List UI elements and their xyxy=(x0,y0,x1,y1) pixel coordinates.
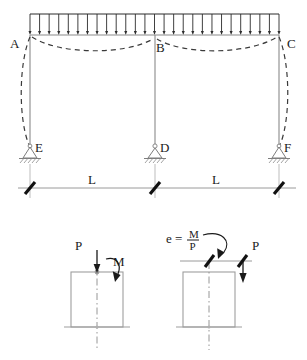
eccentricity-equation-numerator: M xyxy=(189,228,199,240)
udl-arrowhead xyxy=(278,31,281,35)
joint-label-D: D xyxy=(160,140,169,155)
span-label-left: L xyxy=(88,172,96,187)
udl-arrowhead xyxy=(249,31,252,35)
structural-diagram-figure: A B C E D F L L P M e = M P P xyxy=(0,0,307,360)
detail-right-P-arrowhead xyxy=(239,273,246,283)
deflected-beam-right-bay xyxy=(157,37,277,51)
udl-arrowhead xyxy=(191,31,194,35)
detail-left-bottom-node xyxy=(96,326,99,329)
udl-arrowhead xyxy=(38,31,41,35)
udl-arrowhead xyxy=(201,31,204,35)
eccentricity-equation-denominator: P xyxy=(190,240,196,252)
udl-arrowhead xyxy=(48,31,51,35)
eccentricity-equation-lhs: e = xyxy=(166,231,182,246)
udl-arrowhead xyxy=(29,31,32,35)
udl-arrowhead xyxy=(220,31,223,35)
joint-label-E: E xyxy=(35,140,43,155)
udl-arrowhead xyxy=(105,31,108,35)
udl-arrowhead xyxy=(210,31,213,35)
deflected-beam-left-bay xyxy=(32,37,153,51)
udl-arrowhead xyxy=(134,31,137,35)
udl-arrow-group xyxy=(29,14,281,35)
udl-arrowhead xyxy=(258,31,261,35)
joint-label-B: B xyxy=(156,40,165,55)
udl-arrowhead xyxy=(143,31,146,35)
udl-arrowhead xyxy=(86,31,89,35)
joint-label-F: F xyxy=(284,140,291,155)
detail-left-force-label: P xyxy=(75,238,82,253)
eccentricity-leader-arrowhead xyxy=(217,248,225,259)
udl-arrowhead xyxy=(172,31,175,35)
udl-arrowhead xyxy=(124,31,127,35)
label-group: A B C E D F L L P M e = M P P xyxy=(10,36,296,269)
udl-arrowhead xyxy=(115,31,118,35)
udl-arrowhead xyxy=(182,31,185,35)
udl-arrowhead xyxy=(230,31,233,35)
figure-canvas: A B C E D F L L P M e = M P P xyxy=(0,0,307,360)
detail-right-bottom-node xyxy=(208,326,211,329)
detail-left-moment-label: M xyxy=(113,254,125,269)
udl-arrowhead xyxy=(76,31,79,35)
detail-right-group xyxy=(176,234,252,350)
detail-right-force-label: P xyxy=(252,238,259,253)
deflected-column-left xyxy=(21,37,30,145)
joint-label-A: A xyxy=(10,36,20,51)
udl-arrowhead xyxy=(96,31,99,35)
udl-arrowhead xyxy=(268,31,271,35)
udl-arrowhead xyxy=(163,31,166,35)
span-label-right: L xyxy=(212,172,220,187)
eccentricity-leader-arc xyxy=(203,234,227,252)
udl-arrowhead xyxy=(67,31,70,35)
detail-left-M-arrowhead xyxy=(113,271,121,282)
deflected-column-right xyxy=(279,37,288,145)
udl-arrowhead xyxy=(153,31,156,35)
udl-arrowhead xyxy=(239,31,242,35)
udl-arrowhead xyxy=(57,31,60,35)
joint-label-C: C xyxy=(287,36,296,51)
